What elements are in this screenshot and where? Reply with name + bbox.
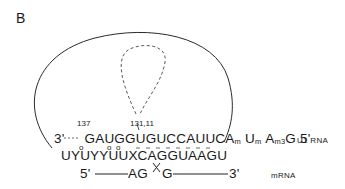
u1-base-a2: A <box>265 131 274 146</box>
u1-mod-a: m <box>235 137 241 146</box>
panel-label: B <box>16 10 25 26</box>
mrna-label: mRNA <box>271 171 296 180</box>
intron-consensus-sequence: UYUYYUUXCAGGUAAGU <box>61 148 227 163</box>
u1-rna-label: U1 RNA <box>297 136 328 145</box>
u1-rna-sequence: 3'GAUGGUGUCCAUUCAm Um Am3G 5' <box>54 131 310 146</box>
position-131-11-label: 131,11 <box>130 119 154 128</box>
mrna-exon-right-start: G <box>162 166 173 181</box>
u1-base-g: G <box>285 131 296 146</box>
mrna-5prime: 5' <box>80 166 91 181</box>
u1-mod-a2: m3 <box>275 137 286 146</box>
u1-rna-dashed-stem-loop <box>121 46 165 114</box>
mrna-exon-left-end: AG <box>128 166 148 181</box>
position-137-label: 137 <box>77 119 90 128</box>
u1-base-u: U <box>245 131 255 146</box>
u1-3prime-end: 3' <box>54 131 65 146</box>
mrna-3prime: 3' <box>229 166 240 181</box>
u1-mod-u: m <box>255 137 261 146</box>
